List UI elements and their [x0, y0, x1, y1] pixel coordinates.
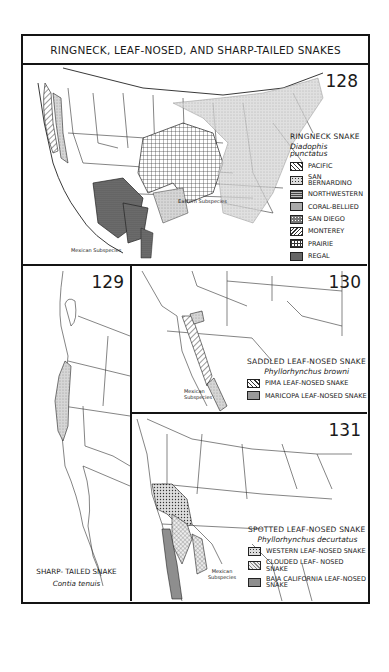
legend-item: SAN DIEGO: [290, 215, 367, 224]
legend-scientific-name: Phyllorhynchus decurtatus: [248, 536, 367, 544]
legend-scientific-name: Diadophis punctatus: [290, 143, 367, 158]
legend-item: SAN BERNARDINO: [290, 174, 367, 187]
spotted-legend: SPOTTED LEAF-NOSED SNAKE Phyllorhynchus …: [248, 526, 367, 592]
map-number: 129: [92, 272, 124, 292]
map-number: 131: [329, 420, 361, 440]
legend-item: PRAIRIE: [290, 239, 367, 248]
pattern-swatch-icon: [290, 215, 303, 224]
pattern-swatch-icon: [290, 202, 303, 211]
legend-item: PACIFIC: [290, 162, 367, 171]
map-131-spotted-leaf-nosed-snake: 131 Mexican Subspecies SPOTTED LEAF-NOSE…: [132, 414, 367, 601]
map-129-sharp-tailed-snake: 129 SHARP- TAILED SNAKE Contia tenuis: [23, 266, 132, 601]
pattern-swatch-icon: [290, 190, 303, 199]
legend-item: CORAL-BELLIED: [290, 202, 367, 211]
legend-item: WESTERN LEAF-NOSED SNAKE: [248, 547, 367, 556]
legend-common-name: SADDLED LEAF-NOSED SNAKE: [247, 358, 367, 366]
pattern-swatch-icon: [290, 176, 303, 185]
saddled-legend: SADDLED LEAF-NOSED SNAKE Phyllorhynchus …: [247, 358, 367, 404]
map-number: 130: [329, 272, 361, 292]
annotation-eastern-subspecies: Eastern Subspecies: [178, 198, 227, 204]
pattern-swatch-icon: [248, 547, 261, 556]
pattern-swatch-icon: [290, 227, 303, 236]
map-caption: SHARP- TAILED SNAKE Contia tenuis: [23, 567, 130, 588]
legend-common-name: RINGNECK SNAKE: [290, 133, 367, 141]
map-number: 128: [326, 71, 358, 91]
map-130-saddled-leaf-nosed-snake: 130 Mexican Subspecies SADDLED LEAF-NOSE…: [132, 266, 367, 414]
plate-title: RINGNECK, LEAF-NOSED, AND SHARP-TAILED S…: [23, 36, 368, 65]
ringneck-legend: RINGNECK SNAKE Diadophis punctatus PACIF…: [290, 133, 367, 264]
pattern-swatch-icon: [247, 379, 260, 388]
legend-item: PIMA LEAF-NOSED SNAKE: [247, 379, 367, 388]
caption-common-name: SHARP- TAILED SNAKE: [23, 567, 130, 576]
map-128-ringneck-snake: 128 Eastern Subspecies Mexican Subspecie…: [23, 63, 367, 266]
caption-scientific-name: Contia tenuis: [23, 579, 130, 588]
sharp-tailed-range-map: [23, 266, 130, 601]
pattern-swatch-icon: [290, 239, 303, 248]
legend-item: MONTEREY: [290, 227, 367, 236]
pattern-swatch-icon: [290, 162, 303, 171]
legend-item: BAJA CALIFORNIA LEAF-NOSED SNAKE: [248, 576, 367, 589]
pattern-swatch-icon: [248, 578, 261, 587]
legend-scientific-name: Phyllorhynchus browni: [247, 368, 367, 376]
pattern-swatch-icon: [290, 252, 303, 261]
pattern-swatch-icon: [247, 391, 260, 400]
annotation-mexican-subspecies: Mexican Subspecies: [207, 569, 237, 581]
legend-item: CLOUDED LEAF- NOSED SNAKE: [248, 559, 367, 572]
annotation-mexican-subspecies: Mexican Subspecies: [184, 389, 214, 401]
map-plate-frame: RINGNECK, LEAF-NOSED, AND SHARP-TAILED S…: [21, 34, 370, 604]
legend-item: MARICOPA LEAF-NOSED SNAKE: [247, 391, 367, 400]
annotation-mexican-subspecies: Mexican Subspecies: [71, 247, 121, 253]
legend-common-name: SPOTTED LEAF-NOSED SNAKE: [248, 526, 367, 534]
legend-item: REGAL: [290, 252, 367, 261]
pattern-swatch-icon: [248, 561, 261, 570]
legend-item: NORTHWESTERN: [290, 190, 367, 199]
